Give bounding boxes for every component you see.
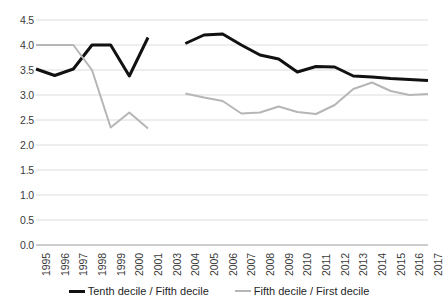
x-axis-tick-label: 2007 xyxy=(246,253,257,276)
legend-line-swatch-icon xyxy=(69,290,85,293)
x-axis-tick-label: 1998 xyxy=(97,253,108,276)
x-axis-tick-label: 2001 xyxy=(153,253,164,276)
x-axis-tick-label: 2000 xyxy=(134,253,145,276)
legend-item-label: Fifth decile / First decile xyxy=(254,285,370,297)
x-axis-tick-label: 2005 xyxy=(209,253,220,276)
x-axis-tick-label: 2017 xyxy=(433,253,444,276)
legend-item-tenth-fifth[interactable]: Tenth decile / Fifth decile xyxy=(69,285,209,297)
x-axis-tick-label: 2010 xyxy=(302,253,313,276)
x-axis-tick-label: 2013 xyxy=(358,253,369,276)
x-axis-tick-label: 2009 xyxy=(284,253,295,276)
legend-item-fifth-first[interactable]: Fifth decile / First decile xyxy=(235,285,370,297)
x-axis-tick-label: 2003 xyxy=(172,253,183,276)
chart-legend: Tenth decile / Fifth decile Fifth decile… xyxy=(0,281,438,301)
x-axis-tick-label: 2012 xyxy=(340,253,351,276)
legend-item-label: Tenth decile / Fifth decile xyxy=(88,285,209,297)
x-axis-tick-label: 1999 xyxy=(116,253,127,276)
x-axis-tick-label: 2006 xyxy=(228,253,239,276)
x-axis-tick-label: 2004 xyxy=(190,253,201,276)
legend-line-swatch-icon xyxy=(235,290,251,292)
x-axis-tick-label: 2015 xyxy=(396,253,407,276)
x-axis-tick-label: 2011 xyxy=(321,254,332,276)
x-axis-tick-label: 2008 xyxy=(265,253,276,276)
x-axis-tick-label: 1997 xyxy=(78,253,89,276)
x-axis-tick-label: 1995 xyxy=(41,253,52,276)
x-axis-tick-label: 2014 xyxy=(377,253,388,276)
x-axis-tick-label: 2016 xyxy=(414,253,425,276)
x-axis-tick-label: 1996 xyxy=(60,253,71,276)
